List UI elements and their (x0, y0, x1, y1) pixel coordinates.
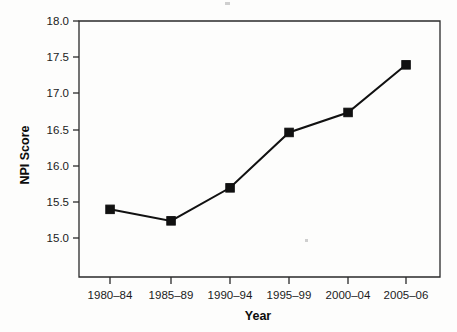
data-point-marker (402, 61, 411, 70)
data-series-markers (106, 61, 411, 226)
data-point-marker (167, 217, 176, 226)
y-tick-label: 16.0 (47, 160, 69, 172)
plot-frame (79, 21, 440, 277)
x-tick-label: 1990–94 (208, 289, 253, 301)
x-tick-label: 1985–89 (149, 289, 194, 301)
data-point-marker (285, 128, 294, 137)
scan-artifact (225, 2, 230, 5)
line-chart-svg: 18.0 17.5 17.0 16.5 16.0 15.5 15.0 NPI S… (0, 0, 457, 332)
y-tick-label: 15.0 (47, 232, 69, 244)
scan-artifact (305, 239, 308, 242)
plot-border (79, 21, 440, 277)
y-tick-label: 15.5 (47, 196, 69, 208)
chart-figure: 18.0 17.5 17.0 16.5 16.0 15.5 15.0 NPI S… (0, 0, 457, 332)
y-tick-label: 17.0 (47, 87, 69, 99)
y-tick-label: 18.0 (47, 15, 69, 27)
y-tick-label: 16.5 (47, 124, 69, 136)
x-tick-label: 1995–99 (267, 289, 312, 301)
x-axis-title: Year (245, 309, 272, 323)
data-point-marker (226, 184, 235, 193)
y-axis-ticks (73, 21, 79, 238)
x-tick-label: 1980–84 (88, 289, 133, 301)
data-point-marker (106, 205, 115, 214)
y-tick-label: 17.5 (47, 51, 69, 63)
y-axis-tick-labels: 18.0 17.5 17.0 16.5 16.0 15.5 15.0 (47, 15, 69, 244)
x-axis-ticks (110, 277, 406, 284)
x-tick-label: 2000–04 (326, 289, 371, 301)
x-tick-label: 2005–06 (384, 289, 429, 301)
data-series-line (110, 65, 406, 221)
x-axis-tick-labels: 1980–84 1985–89 1990–94 1995–99 2000–04 … (88, 289, 429, 301)
y-axis-title: NPI Score (18, 125, 32, 184)
data-point-marker (344, 108, 353, 117)
